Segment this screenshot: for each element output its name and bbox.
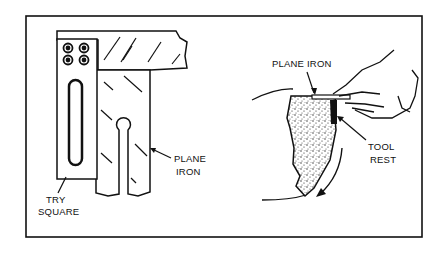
label-try: TRY [46,194,66,205]
label-tool: TOOL [368,141,395,152]
try-square-slot [69,80,82,165]
label-plane: PLANE [174,153,206,164]
tool-rest [330,100,337,124]
hand [333,50,418,118]
illustration: TRY SQUARE PLANE IRON PLANE IRON TOOL RE… [0,0,445,253]
right-panel: PLANE IRON TOOL REST [252,50,418,200]
wheel-outline [252,89,293,100]
tool-rest-arrow [340,118,366,140]
left-panel: TRY SQUARE PLANE IRON [38,31,206,217]
grinding-wheel [287,96,336,196]
wheel-outline-bottom [262,195,306,200]
label-square: SQUARE [38,206,79,217]
plane-iron-body [96,70,150,196]
label-rest: REST [370,154,396,165]
label-iron: IRON [176,166,201,177]
label-plane-iron-right: PLANE IRON [272,58,332,69]
arrowhead [311,88,317,95]
